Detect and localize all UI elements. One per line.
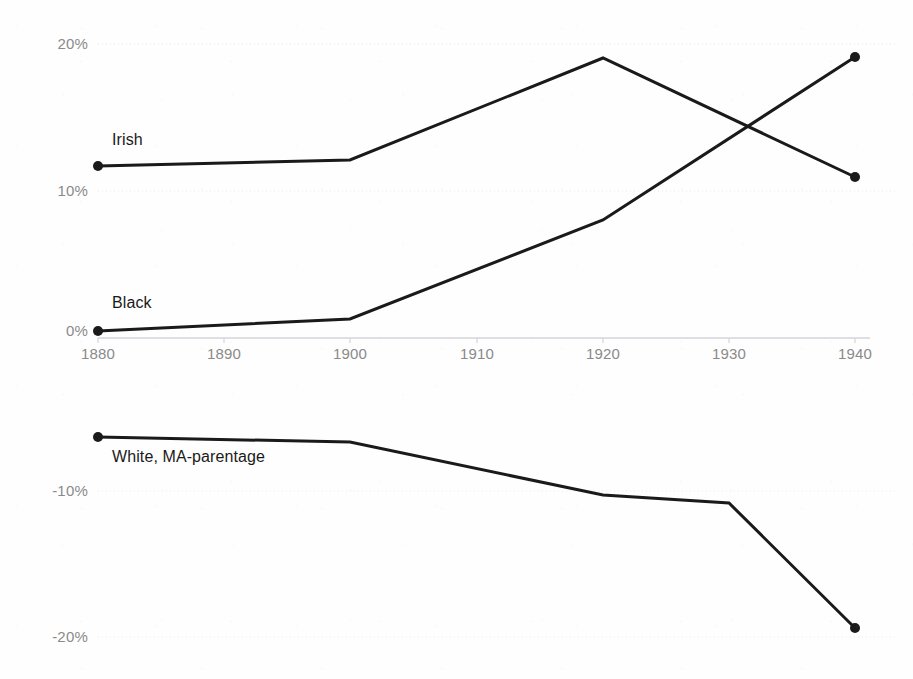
series-irish-line (98, 58, 855, 177)
x-axis-ticks (98, 338, 855, 343)
series-irish-marker-1940 (850, 172, 860, 182)
series-irish-marker-1880 (93, 161, 103, 171)
x-tick-1930: 1930 (699, 345, 759, 362)
series-black-marker-1940 (850, 52, 860, 62)
x-tick-1890: 1890 (194, 345, 254, 362)
series-black-marker-1880 (93, 326, 103, 336)
chart-figure: 20% 10% 0% -10% -20% 1880 1890 1900 1910… (0, 0, 913, 679)
x-tick-1880: 1880 (68, 345, 128, 362)
series-label-irish: Irish (112, 131, 143, 149)
chart-plot-area (0, 0, 913, 679)
x-tick-1940: 1940 (825, 345, 885, 362)
series-white-ma-parentage-marker-1940 (850, 623, 860, 633)
series-black (93, 52, 860, 336)
y-tick-10: 10% (38, 182, 88, 199)
series-label-black: Black (112, 294, 152, 312)
x-tick-1900: 1900 (320, 345, 380, 362)
y-tick-20: 20% (38, 35, 88, 52)
y-tick-minus-10: -10% (30, 482, 88, 499)
x-axis (98, 338, 870, 343)
y-tick-0: 0% (38, 322, 88, 339)
y-tick-minus-20: -20% (30, 628, 88, 645)
x-tick-1920: 1920 (573, 345, 633, 362)
x-tick-1910: 1910 (447, 345, 507, 362)
series-irish (93, 58, 860, 182)
series-black-line (98, 57, 855, 331)
series-label-white-ma-parentage: White, MA-parentage (112, 448, 265, 466)
series-white-ma-parentage-marker-1880 (93, 432, 103, 442)
